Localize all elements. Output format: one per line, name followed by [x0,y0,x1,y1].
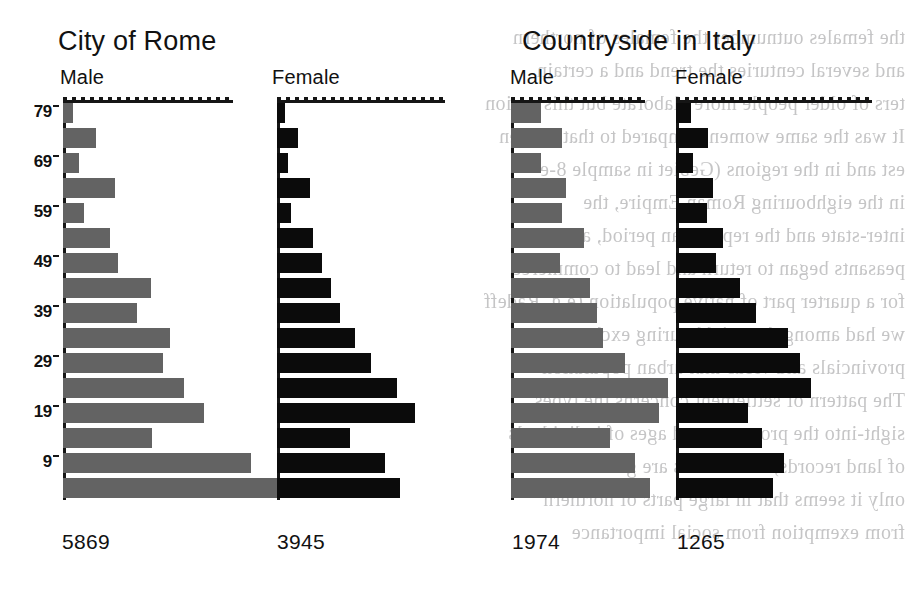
bar-50-54 [676,228,723,248]
bar-35-39 [511,303,597,323]
age-tick-9: 9 [43,452,59,471]
bar-40-44 [511,278,590,298]
bar-30-34 [511,328,603,348]
sex-label-female: Female [675,66,743,89]
bar-20-24 [676,378,811,398]
bar-25-29 [511,353,625,373]
bar-40-44 [676,278,740,298]
age-tick-label-text: 59 [34,202,52,221]
bar-55-59 [676,203,707,223]
age-tick-79: 79 [34,102,59,121]
tick-mark [53,105,59,107]
bar-45-49 [511,253,560,273]
bar-70-74 [676,128,708,148]
bar-15-19 [63,403,204,423]
total-female: 1265 [677,530,725,554]
panel-countryside-in-italy: Countryside in Italy Male Female 1974 12… [460,0,913,591]
age-tick-59: 59 [34,202,59,221]
bar-60-64 [676,178,713,198]
bar-40-44 [277,278,331,298]
bar-20-24 [63,378,184,398]
bar-75-79 [277,103,285,123]
age-tick-29: 29 [34,352,59,371]
panel-city-of-rome: City of Rome Male Female 796959493929199… [0,0,460,591]
bar-10-14 [511,428,610,448]
age-tick-label-text: 19 [34,402,52,421]
bar-70-74 [511,128,562,148]
bar-65-69 [511,153,541,173]
bar-55-59 [511,203,562,223]
tick-mark [53,155,59,157]
bar-50-54 [63,228,110,248]
bar-25-29 [676,353,800,373]
bar-10-14 [63,428,152,448]
age-tick-19: 19 [34,402,59,421]
bar-75-79 [511,103,541,123]
bar-45-49 [277,253,322,273]
bar-60-64 [277,178,310,198]
axis-tick-row [676,97,872,101]
bar-35-39 [277,303,340,323]
total-male: 1974 [512,530,560,554]
tick-mark [53,355,59,357]
bar-30-34 [676,328,788,348]
panel-title: City of Rome [58,26,216,57]
bar-50-54 [511,228,584,248]
bar-5-9 [511,453,635,473]
panel-title: Countryside in Italy [522,26,756,57]
age-tick-label-text: 49 [34,252,52,271]
age-tick-label-text: 9 [43,452,52,471]
bar-70-74 [63,128,96,148]
bar-0-4 [277,478,400,498]
bar-10-14 [277,428,350,448]
bar-20-24 [511,378,668,398]
tick-mark [53,455,59,457]
bar-50-54 [277,228,313,248]
bar-5-9 [676,453,784,473]
bar-60-64 [511,178,566,198]
bar-35-39 [676,303,756,323]
bar-0-4 [511,478,650,498]
bar-15-19 [277,403,415,423]
sex-label-male: Male [510,66,554,89]
tick-mark [53,255,59,257]
sex-label-female: Female [272,66,340,89]
sex-label-male: Male [60,66,104,89]
figure-root: City of Rome Male Female 796959493929199… [0,0,913,591]
bar-45-49 [63,253,118,273]
bar-55-59 [63,203,84,223]
age-tick-label-text: 79 [34,102,52,121]
bar-75-79 [676,103,691,123]
age-tick-label-text: 69 [34,152,52,171]
bar-15-19 [676,403,748,423]
bar-65-69 [676,153,693,173]
bar-5-9 [277,453,385,473]
tick-mark [53,405,59,407]
axis-tick-row [63,97,233,101]
bar-30-34 [63,328,170,348]
age-tick-label-text: 39 [34,302,52,321]
bar-25-29 [277,353,371,373]
bar-75-79 [63,103,73,123]
bar-70-74 [277,128,298,148]
bar-15-19 [511,403,659,423]
age-tick-69: 69 [34,152,59,171]
bar-40-44 [63,278,151,298]
bar-65-69 [63,153,79,173]
axis-tick-row [511,97,645,101]
bar-65-69 [277,153,288,173]
bar-35-39 [63,303,137,323]
bar-30-34 [277,328,355,348]
age-tick-label-text: 29 [34,352,52,371]
bar-45-49 [676,253,716,273]
bar-20-24 [277,378,397,398]
age-tick-49: 49 [34,252,59,271]
age-tick-39: 39 [34,302,59,321]
bar-55-59 [277,203,291,223]
bar-5-9 [63,453,251,473]
bar-0-4 [63,478,279,498]
total-male: 5869 [62,530,110,554]
bar-10-14 [676,428,762,448]
total-female: 3945 [277,530,325,554]
tick-mark [53,205,59,207]
